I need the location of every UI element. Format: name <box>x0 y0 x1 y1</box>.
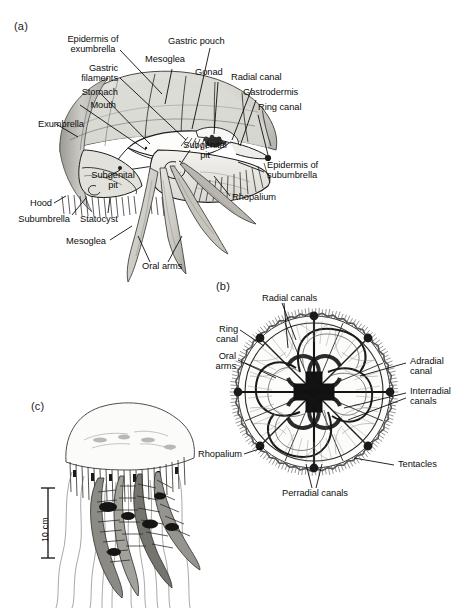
label-exumbrella: Exumbrella <box>0 119 84 129</box>
label-interradial-canals: Interradial canals <box>410 386 451 407</box>
label-adradial-canal: Adradial canal <box>410 356 444 377</box>
panel-c-drawing <box>41 403 200 608</box>
leader-tentacles-b <box>354 458 394 465</box>
panel-tag-b: (b) <box>216 280 230 292</box>
label-epidermis-of-subumbrella: Epidermis of subumbrella <box>267 160 318 181</box>
label-subumbrella: Subumbrella <box>0 214 70 224</box>
label-epidermis-of-exumbrella: Epidermis of exumbrella <box>58 34 128 55</box>
label-ring-canal: Ring canal <box>258 102 301 112</box>
label-stomach: Stomach <box>38 87 118 97</box>
leader-hood <box>54 196 66 203</box>
scale-bar-label: 10 cm <box>40 517 50 542</box>
panel-tag-c: (c) <box>31 400 44 412</box>
panel-tag-a: (a) <box>14 20 28 32</box>
label-statocyst: Statocyst <box>80 214 118 224</box>
label-radial-canal: Radial canal <box>231 72 282 82</box>
label-ring-canal-b: Ring canal <box>188 324 238 345</box>
label-mouth: Mouth <box>36 100 116 110</box>
label-subgenital-pit-left: Subgenital pit <box>82 170 144 191</box>
oral-arms-c <box>91 472 200 598</box>
label-gonad: Gonad <box>195 67 223 77</box>
label-subgenital-pit-right: Subgenital pit <box>174 140 236 161</box>
panel-b-drawing <box>230 308 399 476</box>
leader-statocyst <box>108 198 110 213</box>
leader-subumbrella <box>72 198 86 215</box>
label-oral-arms: Oral arms <box>142 261 182 271</box>
label-gastric-filaments: Gastric filaments <box>46 63 118 84</box>
label-hood: Hood <box>6 198 52 208</box>
label-tentacles-b: Tentacles <box>398 459 437 469</box>
label-gastric-pouch: Gastric pouch <box>168 36 225 46</box>
label-mesoglea-top: Mesoglea <box>145 54 185 64</box>
label-perradial-canals: Perradial canals <box>258 488 372 498</box>
label-oral-arms-b: Oral arms <box>190 351 236 372</box>
label-rhopalium-b: Rhopalium <box>178 449 242 459</box>
leader-mesoglea-bottom <box>110 226 132 240</box>
label-radial-canals: Radial canals <box>262 293 317 303</box>
label-mesoglea-bottom: Mesoglea <box>42 236 106 246</box>
label-gastrodermis: Gastrodermis <box>243 87 298 97</box>
bell-c <box>66 403 195 470</box>
label-rhopalium: Rhopalium <box>232 192 276 202</box>
figure-root: (a) (b) (c) Epidermis of exumbrella Gast… <box>0 0 464 608</box>
